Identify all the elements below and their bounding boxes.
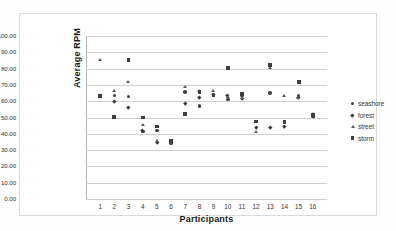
data-point-storm [98, 94, 102, 98]
chart-frame: 100.0090.0080.0070.0060.0050.0040.0030.0… [19, 13, 377, 216]
data-point-seashore [183, 90, 187, 94]
legend-label: street [358, 123, 374, 130]
data-point-seashore [127, 95, 131, 99]
data-point-forest [198, 95, 202, 99]
gridline [86, 150, 327, 151]
data-point-seashore [155, 129, 159, 133]
data-point-street [112, 89, 116, 92]
data-point-street [126, 80, 130, 83]
screenshot-root: 100.0090.0080.0070.0060.0050.0040.0030.0… [0, 0, 396, 231]
data-point-street [155, 139, 159, 142]
diamond-marker-icon [348, 111, 357, 120]
data-point-street [141, 123, 145, 126]
triangle-marker-icon [348, 122, 357, 131]
y-axis-tick-label: 50.00 [0, 114, 16, 121]
y-axis-tick-label: 100.00 [0, 32, 16, 39]
data-point-street [282, 94, 286, 97]
data-point-storm [198, 90, 202, 94]
legend-item-forest[interactable]: forest [348, 110, 396, 122]
circle-marker-icon [348, 99, 357, 108]
data-point-storm [254, 120, 258, 124]
y-axis-tick-label: 10.00 [0, 179, 16, 186]
data-point-forest [254, 125, 258, 129]
data-point-storm [141, 116, 145, 120]
gridline [86, 85, 327, 86]
y-axis-tick-label: 70.00 [0, 81, 16, 88]
data-point-seashore [113, 94, 117, 98]
chart-legend: seashoreforeststreetstorm [348, 98, 396, 144]
y-axis-tick-label: 60.00 [0, 97, 16, 104]
data-point-storm [112, 115, 116, 119]
gridline [86, 199, 327, 200]
data-point-forest [268, 125, 272, 129]
data-point-street [183, 85, 187, 88]
gridline [86, 118, 327, 119]
data-point-storm [283, 120, 287, 124]
gridline [86, 36, 327, 37]
data-point-storm [226, 66, 230, 70]
data-point-forest [127, 105, 131, 109]
y-axis-tick-label: 20.00 [0, 162, 16, 169]
data-point-street [211, 89, 215, 92]
legend-item-street[interactable]: street [348, 121, 396, 133]
data-point-forest [183, 102, 187, 106]
x-axis-tick-label: 16 [304, 203, 322, 210]
gridline [86, 183, 327, 184]
y-axis-tick-label: 90.00 [0, 48, 16, 55]
legend-label: forest [358, 112, 374, 119]
data-point-storm [311, 113, 315, 117]
gridline [86, 101, 327, 102]
data-point-seashore [226, 98, 230, 102]
data-point-storm [268, 63, 272, 67]
data-point-street [240, 96, 244, 99]
data-point-forest [113, 99, 117, 103]
data-point-storm [155, 125, 159, 129]
data-point-street [296, 96, 300, 99]
legend-item-seashore[interactable]: seashore [348, 98, 396, 110]
data-point-storm [127, 58, 131, 62]
legend-label: seashore [358, 100, 384, 107]
gridline [86, 166, 327, 167]
data-point-storm [297, 80, 301, 84]
legend-item-storm[interactable]: storm [348, 133, 396, 145]
y-axis-tick-label: 80.00 [0, 65, 16, 72]
data-point-street [226, 95, 230, 98]
y-axis-tick-label: 30.00 [0, 146, 16, 153]
gridline [86, 134, 327, 135]
data-point-street [98, 58, 102, 61]
gridline [86, 69, 327, 70]
x-axis-title: Participants [86, 214, 327, 224]
plot-area: 100.0090.0080.0070.0060.0050.0040.0030.0… [86, 36, 327, 199]
data-point-storm [212, 94, 216, 98]
data-point-seashore [198, 104, 202, 108]
y-axis-tick-label: 0.00 [0, 195, 16, 202]
data-point-storm [183, 112, 187, 116]
gridline [86, 52, 327, 53]
data-point-seashore [268, 91, 272, 95]
data-point-storm [169, 139, 173, 143]
y-axis-tick-label: 40.00 [0, 130, 16, 137]
data-point-forest [283, 125, 287, 129]
legend-label: storm [358, 135, 374, 142]
y-axis-title: Average RPM [72, 28, 82, 88]
square-marker-icon [348, 134, 357, 143]
data-point-storm [240, 92, 244, 96]
data-point-street [254, 130, 258, 133]
